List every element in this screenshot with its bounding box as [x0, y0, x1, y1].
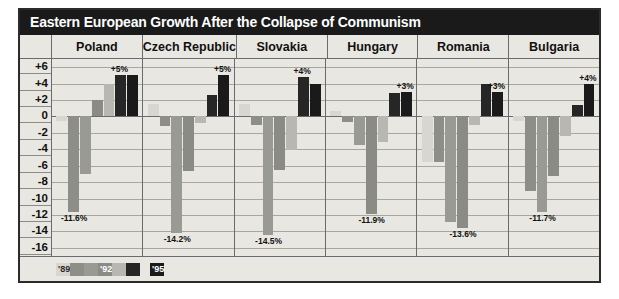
bar-poland-91[interactable] — [80, 116, 91, 173]
bar-romania-90[interactable] — [434, 116, 445, 162]
bar-bulgaria-93[interactable] — [560, 116, 571, 136]
y-axis-tick-+2: +2 — [35, 94, 48, 106]
bar-group: -11.6%+5% — [56, 59, 138, 256]
bar-slot — [469, 59, 480, 256]
bar-bulgaria-89[interactable] — [513, 116, 524, 121]
axis-row-divider — [20, 172, 51, 173]
y-axis-tick--10: -10 — [31, 193, 48, 205]
bar-poland-90[interactable] — [68, 116, 79, 211]
bar-slot: +4% — [298, 59, 309, 256]
bar-slot — [548, 59, 559, 256]
bar-value-label: +5% — [214, 65, 231, 74]
bar-poland-89[interactable] — [56, 116, 67, 120]
bar-value-label: -11.6% — [61, 214, 87, 223]
bar-group: -14.2%+5% — [147, 59, 229, 256]
panel-czech-republic[interactable]: -14.2%+5% — [143, 59, 234, 256]
bar-hungary-92[interactable] — [366, 116, 377, 214]
y-axis-tick--8: -8 — [38, 176, 48, 188]
bar-hungary-93[interactable] — [378, 116, 389, 141]
legend-label-95: '95 — [151, 263, 164, 276]
bar-czech-republic-92[interactable] — [183, 116, 194, 170]
panel-slovakia[interactable]: -14.5%+4% — [235, 59, 326, 256]
bar-hungary-94[interactable] — [389, 93, 400, 117]
legend-swatch-95: '95 — [150, 263, 164, 276]
bar-slot: +3% — [401, 59, 412, 256]
bar-czech-republic-91[interactable] — [171, 116, 182, 233]
bar-slot — [251, 59, 262, 256]
bar-slot — [354, 59, 365, 256]
axis-row-divider — [20, 205, 51, 206]
bar-poland-93[interactable] — [104, 84, 115, 117]
bar-slovakia-94[interactable] — [298, 77, 309, 116]
axis-row-divider — [20, 73, 51, 74]
bar-slovakia-91[interactable] — [263, 116, 274, 235]
bar-value-label: +4% — [293, 67, 310, 76]
country-header-hungary: Hungary — [328, 35, 419, 58]
bar-slot — [434, 59, 445, 256]
bar-slovakia-95[interactable] — [310, 84, 321, 117]
panel-poland[interactable]: -11.6%+5% — [52, 59, 143, 256]
bar-group: -13.6%+3% — [421, 59, 503, 256]
bar-poland-92[interactable] — [92, 100, 103, 116]
bar-group: -11.9%+3% — [330, 59, 412, 256]
bar-slot — [80, 59, 91, 256]
bar-bulgaria-91[interactable] — [537, 116, 548, 212]
bar-slot: -14.5% — [263, 59, 274, 256]
bar-romania-93[interactable] — [469, 116, 480, 124]
bar-slot — [525, 59, 536, 256]
bar-value-label: +3% — [488, 82, 505, 91]
bar-bulgaria-95[interactable] — [584, 84, 595, 117]
legend-row: '89'92'95 — [20, 256, 599, 281]
bar-bulgaria-90[interactable] — [525, 116, 536, 191]
bar-slot — [445, 59, 456, 256]
bar-slovakia-92[interactable] — [274, 116, 285, 169]
bar-hungary-89[interactable] — [330, 111, 341, 117]
plot-area: +6+4+20-2-4-6-8-10-12-14-16 -11.6%+5%-14… — [20, 59, 599, 256]
bar-value-label: -14.5% — [255, 237, 282, 246]
bar-slot — [330, 59, 341, 256]
legend-swatch-90 — [70, 263, 84, 276]
bar-bulgaria-94[interactable] — [572, 105, 583, 116]
bar-value-label: +4% — [579, 74, 596, 83]
bar-bulgaria-92[interactable] — [548, 116, 559, 176]
bar-czech-republic-94[interactable] — [207, 95, 218, 116]
country-header-bulgaria: Bulgaria — [509, 35, 599, 58]
bar-slot — [342, 59, 353, 256]
bar-czech-republic-93[interactable] — [195, 116, 206, 123]
bar-slot: -11.7% — [537, 59, 548, 256]
bar-value-label: +5% — [111, 65, 128, 74]
bar-romania-89[interactable] — [422, 116, 433, 162]
legend-swatch-91 — [84, 263, 98, 276]
panel-bulgaria[interactable]: -11.7%+4% — [509, 59, 599, 256]
bar-czech-republic-95[interactable] — [218, 75, 229, 116]
bar-hungary-91[interactable] — [354, 116, 365, 145]
legend-label-89: '89 — [57, 263, 70, 276]
bar-slovakia-89[interactable] — [239, 104, 250, 116]
bar-slot: -11.6% — [68, 59, 79, 256]
header-axis-spacer — [20, 35, 52, 58]
bar-hungary-95[interactable] — [401, 92, 412, 117]
bar-slot — [127, 59, 138, 256]
bar-value-label: -13.6% — [450, 230, 477, 239]
bar-romania-91[interactable] — [445, 116, 456, 222]
bar-poland-95[interactable] — [127, 75, 138, 116]
bar-czech-republic-89[interactable] — [148, 104, 159, 116]
bar-slot — [239, 59, 250, 256]
axis-row-divider — [20, 237, 51, 238]
legend-swatch-89: '89 — [56, 263, 70, 276]
bar-slovakia-93[interactable] — [286, 116, 297, 150]
bar-hungary-90[interactable] — [342, 116, 353, 122]
year-legend: '89'92'95 — [56, 263, 164, 276]
bar-slot — [104, 59, 115, 256]
chart-frame: Eastern European Growth After the Collap… — [18, 8, 601, 283]
panel-hungary[interactable]: -11.9%+3% — [326, 59, 417, 256]
y-axis-tick-+6: +6 — [35, 61, 48, 73]
bar-romania-95[interactable] — [492, 92, 503, 117]
bar-romania-92[interactable] — [457, 116, 468, 228]
bar-slot: +4% — [584, 59, 595, 256]
panel-romania[interactable]: -13.6%+3% — [417, 59, 508, 256]
bar-slot — [572, 59, 583, 256]
bar-czech-republic-90[interactable] — [160, 116, 171, 126]
bar-slovakia-90[interactable] — [251, 116, 262, 124]
bar-poland-94[interactable] — [115, 75, 126, 116]
